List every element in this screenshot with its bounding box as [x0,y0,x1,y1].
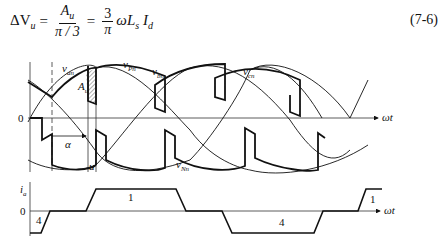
top-origin-label: 0 [18,112,24,124]
label-vbn: vbn [152,65,164,80]
ia-label: ia [20,183,27,198]
waveform-figure: 0 ωt α u van Au vPn vbn vcn vNn ia 0 ωt … [0,0,448,250]
segment-label-4b: 4 [279,216,285,228]
top-axis-label: ωt [382,111,394,123]
segment-label-1b: 1 [370,193,376,205]
u-label: u [89,160,95,172]
label-van: van [62,62,74,77]
current-ia [30,189,382,233]
segment-label-1a: 1 [128,191,134,203]
curve-van [28,65,250,170]
alpha-label: α [65,138,71,150]
bottom-axis-label: ωt [384,204,396,216]
bottom-origin-label: 0 [20,205,26,217]
label-vPn: vPn [123,58,136,73]
segment-label-4a: 4 [36,214,42,226]
label-vNn: vNn [176,158,190,173]
